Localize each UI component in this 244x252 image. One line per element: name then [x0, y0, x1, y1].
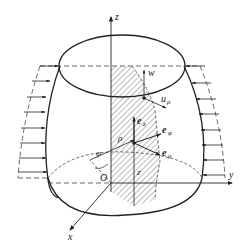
u-rho-label: u	[161, 93, 166, 104]
x-axis-label: x	[67, 231, 73, 242]
origin-label: O	[100, 172, 107, 183]
cylinder-diagram: z y x O w u ρ e z e φ e ρ ρ φ z	[0, 0, 244, 252]
e-phi-subscript: φ	[168, 129, 172, 137]
phi-label: φ	[96, 148, 101, 158]
right-pressure-arrows	[186, 66, 225, 175]
y-axis-label: y	[228, 169, 234, 180]
diagram-canvas: z y x O w u ρ e z e φ e ρ ρ φ z	[0, 0, 244, 252]
e-z-label: e	[137, 115, 142, 126]
w-label: w	[148, 67, 155, 78]
x-axis	[70, 183, 111, 230]
z-axis-label: z	[114, 11, 119, 22]
rho-label: ρ	[117, 133, 123, 143]
left-pressure-arrows	[18, 66, 58, 172]
e-rho-label: e	[162, 147, 167, 158]
e-phi-label: e	[162, 124, 167, 135]
u-rho-subscript: ρ	[166, 98, 171, 106]
e-z-subscript: z	[142, 120, 146, 128]
z-coordinate-label: z	[136, 167, 141, 177]
e-rho-subscript: ρ	[167, 152, 172, 160]
